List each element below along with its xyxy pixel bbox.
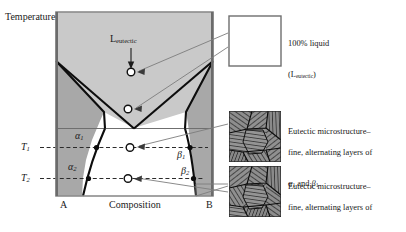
callout-liquid-line2-tail: ) bbox=[313, 70, 316, 79]
alpha1-sub: 1 bbox=[80, 134, 83, 141]
y-axis-label: Temperature bbox=[5, 11, 55, 22]
callout-liquid-line2-sub: eutectic bbox=[296, 73, 313, 79]
tick-T1-sub: 1 bbox=[27, 145, 30, 152]
callout-liquid-text: 100% liquid (Leutectic) bbox=[288, 29, 329, 92]
callout-box-eutectic-2 bbox=[229, 166, 281, 217]
x-axis-endpoint-b: B bbox=[206, 199, 213, 210]
phase-label-alpha1: α1 bbox=[75, 130, 84, 142]
callout-liquid-line2-base: (L bbox=[288, 70, 296, 79]
beta1-sub: 1 bbox=[182, 153, 185, 160]
callout-eutectic-2-text: Eutectic microstructure– fine, alternati… bbox=[288, 172, 372, 232]
x-axis-endpoint-a: A bbox=[60, 199, 67, 210]
point-T2 bbox=[124, 175, 132, 183]
liquid-eutectic-label: Leutectic bbox=[110, 33, 137, 45]
callout-box-liquid bbox=[229, 16, 281, 66]
x-axis-label: Composition bbox=[109, 199, 161, 210]
figure-root: Temperature Composition A B T1 T2 Leutec… bbox=[0, 0, 406, 232]
phase-label-beta2: β2 bbox=[181, 165, 189, 177]
tick-label-T2: T2 bbox=[21, 172, 30, 184]
tick-label-T1: T1 bbox=[21, 141, 30, 153]
callout-e1-line2: fine, alternating layers of bbox=[288, 148, 372, 158]
tick-T2-sub: 2 bbox=[27, 176, 30, 183]
callout-e2-line2: fine, alternating layers of bbox=[288, 203, 372, 213]
callout-e2-line3: α2 and β2* bbox=[288, 223, 372, 232]
point-liquid bbox=[127, 68, 135, 76]
phase-label-beta1: β1 bbox=[177, 149, 185, 161]
callout-box-eutectic-1 bbox=[229, 111, 281, 162]
callout-liquid-line2: (Leutectic) bbox=[288, 60, 329, 82]
liquid-label-sub: eutectic bbox=[116, 37, 137, 44]
callout-e2-line1: Eutectic microstructure– bbox=[288, 182, 372, 192]
callout-liquid-line1: 100% liquid bbox=[288, 39, 329, 49]
callout-e1-line1: Eutectic microstructure– bbox=[288, 127, 372, 137]
point-T1 bbox=[126, 144, 134, 152]
point-eutectic bbox=[124, 105, 132, 113]
beta2-sub: 2 bbox=[186, 169, 189, 176]
alpha2-sub: 2 bbox=[73, 165, 76, 172]
phase-label-alpha2: α2 bbox=[68, 161, 77, 173]
